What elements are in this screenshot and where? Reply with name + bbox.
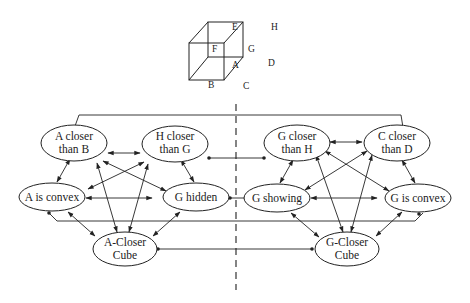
svg-text:G is convex: G is convex xyxy=(391,192,446,204)
cube-label-b: B xyxy=(208,80,214,90)
necker-cube-network-diagram: E H F G A D B C xyxy=(0,0,470,303)
node-g-closer-than-h: G closer than H xyxy=(264,125,330,161)
cube-front-face xyxy=(189,43,224,80)
cube-label-f: F xyxy=(212,44,217,54)
cube-label-g: G xyxy=(248,44,255,54)
svg-text:C closer: C closer xyxy=(378,130,416,142)
svg-text:G closer: G closer xyxy=(278,130,317,142)
svg-text:than D: than D xyxy=(382,143,413,155)
node-g-showing: G showing xyxy=(244,184,310,212)
cube-label-h: H xyxy=(271,22,278,32)
node-g-closer-cube: G-Closer Cube xyxy=(315,232,379,266)
svg-text:Cube: Cube xyxy=(113,249,137,261)
node-a-closer-than-b: A closer than B xyxy=(41,125,107,161)
svg-text:A closer: A closer xyxy=(55,130,93,142)
svg-text:than H: than H xyxy=(282,143,313,155)
svg-text:A-Closer: A-Closer xyxy=(104,236,146,248)
cube-label-e: E xyxy=(232,22,238,32)
cube-label-d: D xyxy=(268,58,275,68)
svg-text:G-Closer: G-Closer xyxy=(326,236,368,248)
svg-text:than B: than B xyxy=(59,143,90,155)
svg-text:H closer: H closer xyxy=(156,130,195,142)
node-h-closer-than-g: H closer than G xyxy=(142,126,208,162)
node-a-closer-cube: A-Closer Cube xyxy=(93,232,157,266)
cube-label-c: C xyxy=(243,81,249,91)
svg-text:G hidden: G hidden xyxy=(175,191,218,203)
svg-text:A is convex: A is convex xyxy=(25,191,80,203)
cube-label-a: A xyxy=(232,60,239,70)
node-g-is-convex: G is convex xyxy=(385,184,451,212)
svg-text:Cube: Cube xyxy=(335,249,359,261)
svg-text:G showing: G showing xyxy=(252,192,302,205)
node-c-closer-than-d: C closer than D xyxy=(364,125,430,161)
necker-cube-figure: E H F G A D B C xyxy=(189,22,278,91)
svg-text:than G: than G xyxy=(160,143,191,155)
node-a-is-convex: A is convex xyxy=(19,183,85,211)
node-g-hidden: G hidden xyxy=(163,183,229,211)
